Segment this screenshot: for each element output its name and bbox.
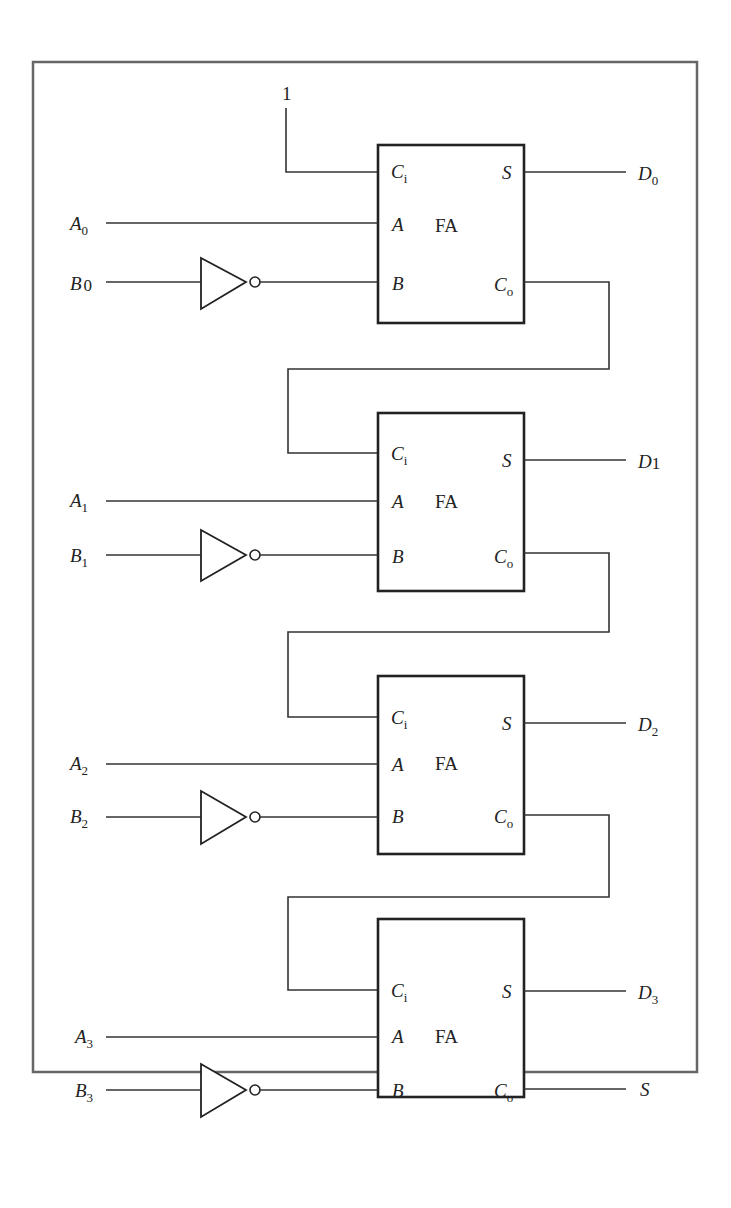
input-a-label: A3 — [73, 1026, 93, 1051]
output-d-label: D1 — [637, 451, 660, 473]
input-b-label: B2 — [70, 806, 88, 831]
fa-label: FA — [435, 753, 458, 774]
b-pin-label: B — [392, 1080, 404, 1101]
a-pin-label: A — [390, 754, 404, 775]
s-pin-label: S — [502, 162, 512, 183]
fa-label: FA — [435, 491, 458, 512]
stage-2: FA Ci A B S Co A2 B2 D2 — [68, 676, 658, 990]
a-pin-label: A — [390, 214, 404, 235]
stage-1: FA Ci A B S Co A1 B1 D1 — [68, 413, 660, 717]
b-pin-label: B — [392, 546, 404, 567]
output-d-label: D3 — [637, 982, 658, 1007]
input-a-label: A0 — [68, 213, 88, 238]
input-b-label: B3 — [75, 1080, 93, 1105]
input-a-label: A2 — [68, 753, 88, 778]
s-pin-label: S — [502, 450, 512, 471]
a-pin-label: A — [390, 491, 404, 512]
constant-one-label: 1 — [282, 83, 292, 104]
input-a-label: A1 — [68, 490, 88, 515]
full-adder-block — [378, 919, 524, 1097]
s-pin-label: S — [502, 713, 512, 734]
input-b-label: B1 — [70, 545, 88, 570]
b-pin-label: B — [392, 273, 404, 294]
inverter-icon — [201, 258, 246, 309]
output-d-label: D0 — [637, 163, 658, 188]
carry-in-wire — [286, 108, 378, 172]
b-pin-label: B — [392, 806, 404, 827]
fa-label: FA — [435, 1026, 458, 1047]
fa-label: FA — [435, 215, 458, 236]
stage-3: FA Ci A B S Co A3 B3 D3 S — [73, 919, 658, 1117]
subtractor-diagram: 1 FA Ci A B S Co A0 B0 D0 FA Ci A B S Co… — [0, 0, 731, 1208]
diagram-frame — [33, 62, 697, 1072]
s-pin-label: S — [502, 981, 512, 1002]
stage-0: FA Ci A B S Co A0 B0 D0 — [68, 145, 658, 453]
inverter-icon — [201, 530, 246, 581]
input-b-label: B0 — [70, 273, 92, 295]
output-d-label: D2 — [637, 714, 658, 739]
final-carry-label: S — [640, 1079, 650, 1100]
inverter-icon — [201, 791, 246, 844]
a-pin-label: A — [390, 1026, 404, 1047]
